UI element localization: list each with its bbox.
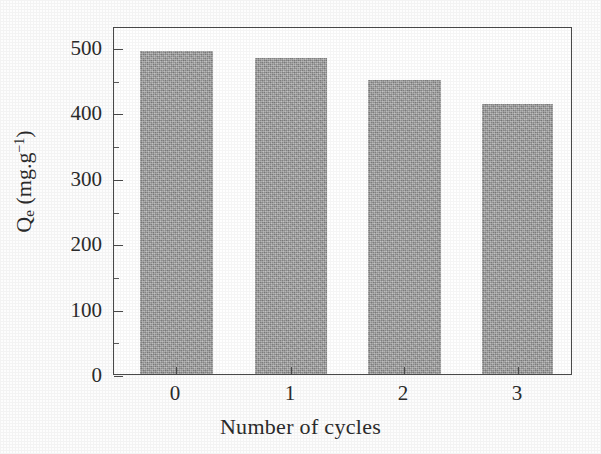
y-axis-unit-close: ) <box>11 130 36 137</box>
x-tick-label-1: 1 <box>260 381 320 406</box>
y-tick-400 <box>114 114 123 115</box>
x-tick-3 <box>518 367 519 375</box>
y-tick-0 <box>114 376 123 377</box>
bar-cycle-3[interactable] <box>482 104 553 374</box>
y-axis-superscript: −1 <box>12 138 27 153</box>
y-tick-minor-250 <box>114 213 119 214</box>
y-tick-minor-150 <box>114 278 119 279</box>
plot-area <box>114 28 571 374</box>
y-tick-label-0: 0 <box>6 363 102 388</box>
y-tick-minor-450 <box>114 82 119 83</box>
y-axis-title: Qe (mg.g−1) <box>11 52 38 312</box>
bar-cycle-0[interactable] <box>140 51 213 374</box>
x-tick-label-3: 3 <box>487 381 547 406</box>
x-axis-title: Number of cycles <box>0 414 601 440</box>
x-tick-1 <box>291 367 292 375</box>
x-tick-0 <box>176 367 177 375</box>
y-tick-minor-50 <box>114 343 119 344</box>
y-tick-minor-350 <box>114 147 119 148</box>
y-tick-500 <box>114 49 123 50</box>
bar-cycle-1[interactable] <box>255 58 327 374</box>
figure-canvas: 500 400 300 200 100 0 Qe (mg.g−1) <box>0 0 601 454</box>
x-tick-2 <box>404 367 405 375</box>
y-axis-subscript: e <box>21 210 37 217</box>
plot-frame <box>113 27 572 375</box>
y-axis-symbol: Q <box>11 217 36 233</box>
y-tick-300 <box>114 180 123 181</box>
x-tick-label-2: 2 <box>373 381 433 406</box>
bar-cycle-2[interactable] <box>368 80 441 374</box>
y-tick-100 <box>114 311 123 312</box>
x-tick-label-0: 0 <box>145 381 205 406</box>
y-axis-unit-open: (mg.g <box>11 153 36 210</box>
y-tick-200 <box>114 245 123 246</box>
